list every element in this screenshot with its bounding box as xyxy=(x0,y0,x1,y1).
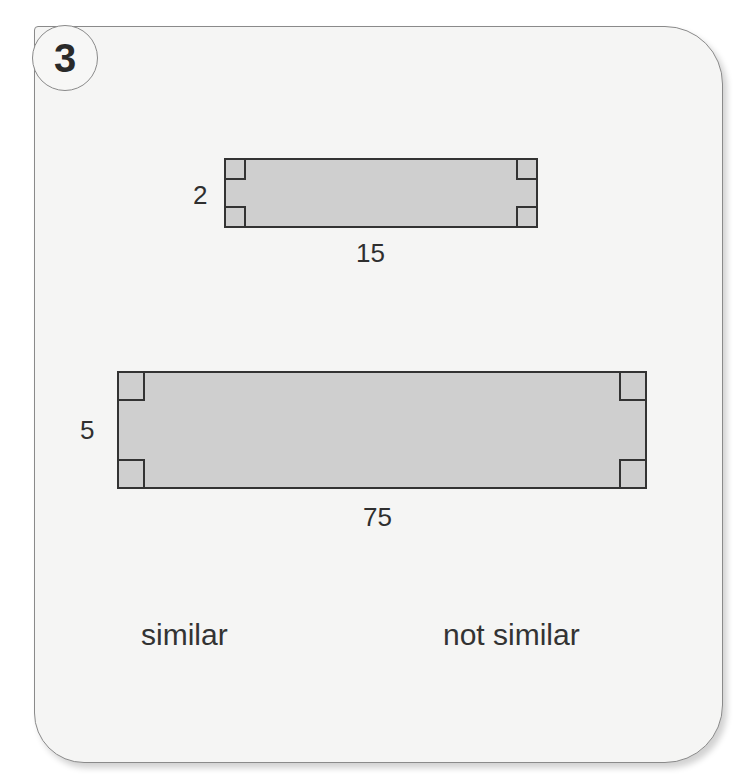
choice-similar[interactable]: similar xyxy=(141,618,228,652)
right-angle-mark xyxy=(119,373,145,401)
small-width-label: 15 xyxy=(356,238,385,269)
small-rectangle xyxy=(224,158,538,228)
problem-number: 3 xyxy=(54,36,76,81)
small-height-label: 2 xyxy=(193,180,207,211)
right-angle-mark xyxy=(226,160,246,180)
right-angle-mark xyxy=(226,206,246,226)
problem-number-badge: 3 xyxy=(32,25,98,91)
choice-not-similar[interactable]: not similar xyxy=(443,618,580,652)
large-width-label: 75 xyxy=(363,502,392,533)
right-angle-mark xyxy=(619,373,645,401)
right-angle-mark xyxy=(516,160,536,180)
right-angle-mark xyxy=(516,206,536,226)
right-angle-mark xyxy=(619,459,645,487)
right-angle-mark xyxy=(119,459,145,487)
large-height-label: 5 xyxy=(80,415,94,446)
large-rectangle xyxy=(117,371,647,489)
